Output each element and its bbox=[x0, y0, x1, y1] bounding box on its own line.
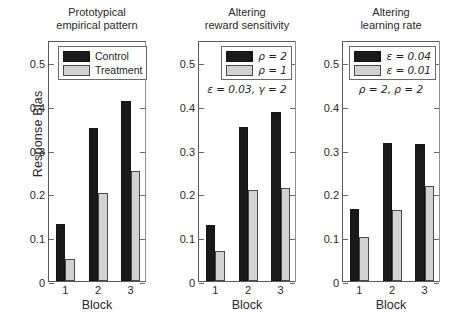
bar--1-block-2 bbox=[248, 190, 258, 281]
x-axis-tick-label: 3 bbox=[422, 284, 428, 296]
y-axis-tick-label: 0.2 bbox=[324, 189, 339, 201]
legend[interactable]: ε = 0.04ε = 0.01 bbox=[349, 46, 436, 80]
x-axis-tick-label: 1 bbox=[62, 284, 68, 296]
bar--0-01-block-1 bbox=[359, 237, 369, 281]
y-axis-tick-right bbox=[140, 152, 145, 153]
x-axis-tick-label: 1 bbox=[356, 284, 362, 296]
plot-area: 00.10.20.30.40.5123Blockρ = 2ρ = 1ε = 0.… bbox=[198, 41, 296, 282]
legend-item[interactable]: ρ = 2 bbox=[226, 50, 287, 62]
y-axis-tick bbox=[199, 64, 204, 65]
legend-item[interactable]: Control bbox=[63, 50, 142, 62]
y-axis-tick-label: 0 bbox=[39, 277, 45, 289]
panel-title: Altering reward sensitivity bbox=[198, 6, 296, 32]
parameter-annotation: ε = 0.03, γ = 2 bbox=[199, 83, 295, 95]
legend-swatch-icon bbox=[354, 65, 381, 76]
plot-area: 00.10.20.30.40.5123BlockControlTreatment bbox=[48, 41, 146, 282]
legend[interactable]: ρ = 2ρ = 1 bbox=[221, 46, 292, 80]
x-axis-tick-label: 3 bbox=[278, 284, 284, 296]
panel-title-line1: Altering bbox=[198, 6, 296, 19]
y-axis-tick bbox=[199, 195, 204, 196]
x-axis-tick-label: 3 bbox=[128, 284, 134, 296]
panel-title-line2: reward sensitivity bbox=[198, 19, 296, 32]
y-axis-tick-label: 0.2 bbox=[180, 189, 195, 201]
panel-title-line2: learning rate bbox=[342, 19, 440, 32]
legend[interactable]: ControlTreatment bbox=[58, 46, 147, 80]
y-axis-tick bbox=[49, 64, 54, 65]
legend-swatch-icon bbox=[63, 51, 90, 62]
panel-prototypical-empirical-pattern: Prototypical empirical pattern 00.10.20.… bbox=[48, 0, 146, 322]
y-axis-tick bbox=[199, 108, 204, 109]
y-axis-tick bbox=[343, 152, 348, 153]
y-axis-tick-label: 0 bbox=[333, 277, 339, 289]
y-axis-tick-label: 0.3 bbox=[324, 146, 339, 158]
y-axis-tick-right bbox=[290, 108, 295, 109]
y-axis-tick-right bbox=[140, 283, 145, 284]
x-axis-tick-label: 1 bbox=[212, 284, 218, 296]
y-axis-tick bbox=[343, 64, 348, 65]
y-axis-tick-right bbox=[434, 239, 439, 240]
bar-control-block-3 bbox=[121, 101, 131, 281]
legend-item[interactable]: ε = 0.01 bbox=[354, 64, 431, 76]
plot-area: 00.10.20.30.40.5123Blockε = 0.04ε = 0.01… bbox=[342, 41, 440, 282]
bar-control-block-2 bbox=[89, 128, 99, 281]
panel-altering-reward-sensitivity: Altering reward sensitivity 00.10.20.30.… bbox=[198, 0, 296, 322]
bar--0-01-block-2 bbox=[392, 210, 402, 281]
y-axis-tick bbox=[199, 283, 204, 284]
bar--0-04-block-1 bbox=[350, 209, 360, 281]
bar--1-block-3 bbox=[281, 188, 291, 281]
legend-swatch-icon bbox=[63, 65, 90, 76]
parameter-annotation: ρ = 2, ρ = 2 bbox=[343, 83, 439, 95]
x-axis-tick-label: 2 bbox=[95, 284, 101, 296]
y-axis-tick-right bbox=[434, 283, 439, 284]
x-axis-label: Block bbox=[343, 298, 439, 312]
y-axis-tick bbox=[343, 195, 348, 196]
bar--2-block-3 bbox=[271, 112, 281, 281]
y-axis-tick-label: 0.1 bbox=[324, 233, 339, 245]
bar--0-01-block-3 bbox=[425, 186, 435, 281]
y-axis-tick-label: 0.5 bbox=[30, 58, 45, 70]
y-axis-tick bbox=[343, 239, 348, 240]
figure-bar-chart-panels: Response Bias Prototypical empirical pat… bbox=[0, 0, 450, 322]
y-axis-tick-label: 0.5 bbox=[180, 58, 195, 70]
legend-label: Treatment bbox=[95, 64, 142, 76]
legend-label: ρ = 2 bbox=[258, 50, 287, 62]
y-axis-tick bbox=[49, 152, 54, 153]
panel-title-line1: Altering bbox=[342, 6, 440, 19]
y-axis-tick-label: 0 bbox=[189, 277, 195, 289]
y-axis-tick bbox=[49, 239, 54, 240]
panel-title: Altering learning rate bbox=[342, 6, 440, 32]
y-axis-tick bbox=[49, 283, 54, 284]
x-axis-tick-label: 2 bbox=[389, 284, 395, 296]
y-axis-tick-label: 0.1 bbox=[30, 233, 45, 245]
bar--0-04-block-2 bbox=[383, 143, 393, 281]
y-axis-tick-right bbox=[290, 195, 295, 196]
y-axis-tick-right bbox=[434, 108, 439, 109]
panel-altering-learning-rate: Altering learning rate 00.10.20.30.40.51… bbox=[342, 0, 440, 322]
y-axis-tick-label: 0.1 bbox=[180, 233, 195, 245]
y-axis-tick-label: 0.4 bbox=[180, 102, 195, 114]
legend-label: ε = 0.01 bbox=[386, 64, 431, 76]
legend-item[interactable]: ε = 0.04 bbox=[354, 50, 431, 62]
legend-item[interactable]: Treatment bbox=[63, 64, 142, 76]
y-axis-tick-right bbox=[290, 239, 295, 240]
panel-title: Prototypical empirical pattern bbox=[48, 6, 146, 32]
y-axis-tick-right bbox=[290, 152, 295, 153]
bar--2-block-2 bbox=[239, 127, 249, 281]
y-axis-tick-label: 0.4 bbox=[324, 102, 339, 114]
y-axis-tick bbox=[343, 108, 348, 109]
y-axis-tick-label: 0.5 bbox=[324, 58, 339, 70]
y-axis-tick-label: 0.3 bbox=[30, 146, 45, 158]
legend-item[interactable]: ρ = 1 bbox=[226, 64, 287, 76]
legend-swatch-icon bbox=[226, 65, 253, 76]
bar--1-block-1 bbox=[215, 251, 225, 281]
y-axis-tick-right bbox=[140, 195, 145, 196]
bar-treatment-block-1 bbox=[65, 259, 75, 281]
y-axis-tick-right bbox=[434, 195, 439, 196]
legend-label: ρ = 1 bbox=[258, 64, 287, 76]
legend-label: ε = 0.04 bbox=[386, 50, 431, 62]
y-axis-tick-right bbox=[434, 152, 439, 153]
bar-treatment-block-2 bbox=[98, 193, 108, 281]
bar--0-04-block-3 bbox=[415, 144, 425, 281]
y-axis-tick-right bbox=[140, 239, 145, 240]
x-axis-label: Block bbox=[49, 298, 145, 312]
